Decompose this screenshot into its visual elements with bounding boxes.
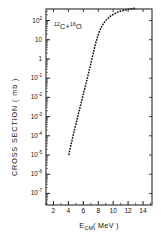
y-tick-label: 10-3: [31, 113, 42, 119]
x-axis-title-subscript: CM: [84, 225, 93, 231]
x-tick-label: 2: [52, 208, 56, 215]
y-tick-exponent: 2: [39, 15, 42, 20]
y-tick-label: 1: [38, 56, 42, 62]
y-tick-exponent: -4: [38, 130, 42, 135]
y-tick-exponent: -2: [38, 92, 42, 97]
y-tick-mantissa: 1: [38, 55, 42, 62]
y-tick-label: 10-7: [31, 190, 42, 196]
x-tick-label: 10: [110, 208, 117, 215]
reaction-annotation: 12C+16O: [54, 23, 82, 30]
y-tick-label: 102: [32, 17, 42, 23]
x-tick-label: 4: [67, 208, 71, 215]
x-axis-title: ECM( MeV ): [79, 222, 118, 229]
y-tick-label: 10-6: [31, 171, 42, 177]
x-tick-label: 14: [139, 208, 146, 215]
y-axis-ticks: [46, 11, 152, 203]
y-tick-exponent: -6: [38, 169, 42, 174]
x-tick-label: 6: [81, 208, 85, 215]
y-tick-exponent: -3: [38, 111, 42, 116]
annotation-element-2: O: [76, 22, 82, 31]
y-tick-label: 10-2: [31, 94, 42, 100]
y-tick-exponent: -5: [38, 150, 42, 155]
figure-container: 10210110-110-210-310-410-510-610-7 24681…: [0, 0, 161, 243]
y-tick-exponent: -7: [38, 188, 42, 193]
y-axis-title: CROSS SECTION ( mb ): [11, 78, 18, 176]
y-tick-label: 10-5: [31, 152, 42, 158]
y-tick-exponent: -1: [38, 73, 42, 78]
x-tick-label: 12: [124, 208, 131, 215]
plot-frame: [46, 9, 152, 205]
y-tick-label: 10: [35, 37, 42, 43]
x-tick-label: 8: [96, 208, 100, 215]
x-axis-title-units: ( MeV ): [93, 221, 119, 230]
y-tick-mantissa: 10: [35, 36, 42, 43]
y-tick-label: 10-4: [31, 133, 42, 139]
y-tick-label: 10-1: [31, 75, 42, 81]
x-axis-ticks: [46, 9, 151, 205]
